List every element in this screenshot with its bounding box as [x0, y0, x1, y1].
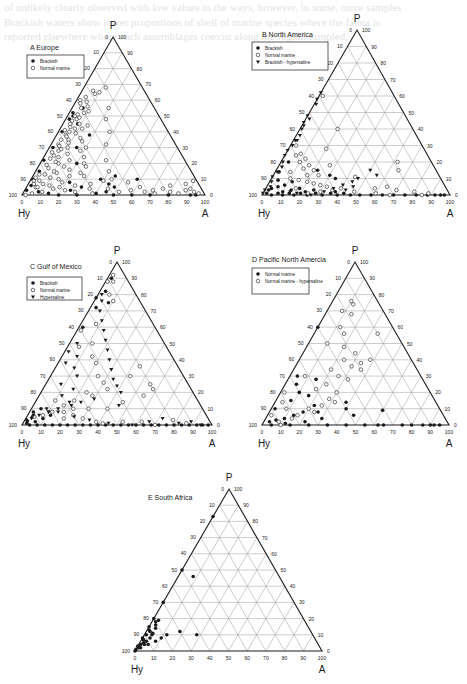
data-point: [327, 397, 331, 401]
tick-label-hy: 70: [280, 142, 286, 148]
data-point: [147, 625, 151, 629]
data-point: [70, 119, 74, 123]
vertex-label-a: A: [447, 208, 454, 219]
data-point: [57, 155, 61, 159]
data-point: [68, 174, 72, 178]
data-point: [106, 280, 110, 284]
tick-label-a: 0: [21, 199, 24, 205]
data-point: [304, 157, 308, 161]
data-point: [71, 388, 75, 392]
tick-label-hy: 80: [30, 160, 36, 166]
data-point: [82, 155, 86, 159]
data-point: [180, 568, 184, 572]
data-point: [107, 170, 111, 174]
data-point: [57, 177, 61, 181]
tick-label-a: 40: [334, 429, 340, 435]
tick-label-p: 0: [454, 422, 457, 428]
tick-label-hy: 100: [249, 422, 258, 428]
tick-label-a: 20: [297, 429, 303, 435]
tick-label-p: 90: [371, 44, 377, 50]
data-point: [91, 342, 95, 346]
data-point: [38, 179, 42, 183]
data-point: [433, 193, 437, 197]
data-point: [63, 188, 67, 192]
tick-label-a: 40: [92, 199, 98, 205]
data-point: [351, 185, 355, 189]
data-point: [381, 409, 385, 413]
data-point: [329, 192, 333, 196]
data-point: [312, 182, 316, 186]
data-point: [73, 190, 77, 194]
data-point: [161, 187, 165, 191]
tick-label-p: 50: [281, 567, 287, 573]
data-point: [283, 417, 287, 421]
data-point: [149, 423, 153, 427]
data-point: [107, 301, 111, 305]
tick-label-p: 60: [155, 97, 161, 103]
data-point: [87, 407, 91, 411]
data-point: [284, 407, 288, 411]
data-point: [79, 106, 83, 110]
data-point: [129, 374, 133, 378]
data-point: [60, 394, 64, 398]
tick-label-hy: 60: [289, 356, 295, 362]
tick-label-a: 50: [353, 429, 359, 435]
data-point: [42, 158, 46, 162]
data-point: [52, 170, 56, 174]
legend-marker: [31, 281, 35, 285]
tick-label-hy: 100: [9, 422, 18, 428]
legend: Normal marineNormal marine - hypersaline: [252, 268, 323, 294]
data-point: [328, 173, 332, 177]
data-point: [290, 180, 294, 184]
tick-label-a: 10: [38, 199, 44, 205]
data-point: [75, 355, 79, 359]
data-point: [129, 188, 133, 192]
data-point: [400, 423, 404, 427]
tick-label-hy: 70: [40, 373, 46, 379]
data-point: [333, 400, 337, 404]
data-point: [335, 193, 339, 197]
data-point: [314, 387, 318, 391]
data-point: [307, 118, 311, 122]
data-point: [344, 400, 348, 404]
data-point: [100, 319, 104, 323]
data-point: [135, 177, 139, 181]
data-point: [267, 188, 271, 192]
data-point: [111, 280, 115, 284]
tick-label-p: 60: [399, 93, 405, 99]
data-point: [86, 124, 90, 128]
data-point: [290, 417, 294, 421]
data-point: [64, 362, 68, 366]
data-point: [368, 169, 372, 173]
data-point: [268, 420, 272, 424]
data-point: [307, 164, 311, 168]
data-point: [413, 190, 417, 194]
data-point: [147, 420, 151, 424]
tick-label-p: 20: [435, 389, 441, 395]
tick-label-a: 10: [38, 429, 44, 435]
tick-label-a: 30: [76, 429, 82, 435]
tick-label-p: 100: [122, 259, 131, 265]
data-point: [414, 193, 418, 197]
data-point: [54, 160, 58, 164]
tick-label-a: 30: [315, 429, 321, 435]
data-point: [143, 190, 147, 194]
data-point: [376, 332, 380, 336]
vertex-label-a: A: [202, 208, 209, 219]
tick-label-hy: 0: [347, 259, 350, 265]
ternary-panel: 0001010102020203030304040405050506060607…: [9, 245, 220, 449]
data-point: [281, 400, 285, 404]
tick-label-a: 80: [409, 429, 415, 435]
data-point: [84, 165, 88, 169]
data-point: [106, 349, 110, 353]
data-point: [80, 127, 84, 131]
data-point: [161, 417, 165, 421]
tick-label-a: 20: [57, 429, 63, 435]
data-point: [397, 168, 401, 172]
data-point: [325, 342, 329, 346]
data-point: [117, 404, 121, 408]
data-point: [171, 418, 175, 422]
vertex-label-hy: Hy: [18, 438, 30, 449]
tick-label-hy: 20: [326, 291, 332, 297]
tick-label-a: 40: [207, 655, 213, 661]
